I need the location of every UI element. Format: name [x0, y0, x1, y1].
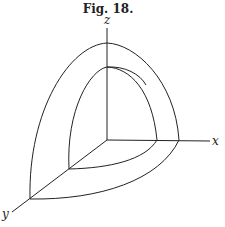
octant-diagram: z x y: [0, 0, 225, 227]
x-axis: [107, 140, 210, 141]
y-axis-label: y: [1, 207, 9, 221]
inner-shell-xz-arc: [107, 67, 157, 140]
y-axis: [12, 140, 107, 212]
shell-join-arc: [107, 67, 146, 85]
z-axis-label: z: [103, 13, 111, 27]
outer-shell-xy-arc: [30, 140, 179, 199]
inner-shell-yz-arc: [69, 67, 107, 169]
x-axis-label: x: [212, 134, 219, 148]
outer-shell-yz-arc: [30, 43, 107, 199]
inner-shell-xy-arc: [69, 140, 157, 169]
